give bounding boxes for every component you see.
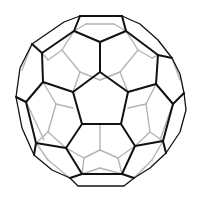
front-edge [16, 97, 26, 102]
back-edge [120, 50, 138, 72]
back-edge [62, 50, 80, 72]
back-edge [48, 50, 62, 60]
back-edge [100, 150, 118, 158]
back-edge [146, 104, 150, 132]
front-edge [100, 31, 126, 42]
front-edge [34, 143, 36, 155]
front-edge [163, 141, 166, 153]
back-edge [126, 31, 138, 50]
back-edge [48, 104, 56, 132]
front-edge [26, 102, 36, 143]
back-edge [56, 104, 73, 108]
front-edge [26, 82, 43, 102]
front-edge [73, 92, 82, 124]
front-edge [126, 31, 158, 55]
front-edge [122, 174, 134, 178]
back-edge [118, 158, 122, 174]
front-edge [42, 53, 43, 82]
front-edge [74, 31, 100, 42]
truncated-icosahedron-drawing [0, 0, 200, 201]
front-edge [70, 174, 82, 178]
back-edge [138, 50, 152, 58]
front-edge [121, 92, 128, 124]
front-edge [66, 124, 82, 148]
front-edge [156, 55, 158, 84]
back-edge [84, 150, 100, 158]
back-edge [36, 132, 48, 143]
front-edge [128, 84, 156, 92]
back-edge [82, 158, 84, 174]
back-edge [128, 104, 146, 108]
front-edge [163, 104, 173, 141]
front-edge [156, 84, 173, 104]
front-edge [173, 93, 184, 104]
front-edge [32, 44, 42, 53]
figure-stage: truncated icosahedron wireframe (soccer … [0, 0, 200, 201]
front-edge [121, 124, 135, 146]
back-edge [62, 31, 74, 50]
